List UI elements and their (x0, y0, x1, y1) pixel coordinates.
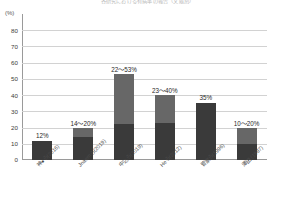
y-axis-tick-label: 30 (2, 108, 18, 115)
bar-data-label: 12% (36, 132, 49, 139)
y-axis-unit-label: (%) (5, 10, 14, 16)
gridline (22, 128, 267, 129)
gridline (22, 144, 267, 145)
bar-data-label: 14〜20% (70, 119, 96, 128)
y-axis-tick-label: 40 (2, 92, 18, 99)
y-axis-tick-label: 60 (2, 59, 18, 66)
y-axis-tick-label: 50 (2, 75, 18, 82)
y-axis-tick-label: 20 (2, 124, 18, 131)
bar-segment-upper (237, 128, 257, 144)
bar-data-label: 23〜40% (152, 86, 178, 95)
bar-data-label: 22〜53% (111, 65, 137, 74)
y-axis-tick-label: 0 (2, 156, 18, 163)
plot-area (22, 14, 267, 160)
gridline (22, 63, 267, 64)
bar-segment-upper (114, 74, 134, 124)
gridline (22, 111, 267, 112)
gridline (22, 30, 267, 31)
gridline (22, 79, 267, 80)
bar-chart: 各研究における有病率の報告（文献別） (%) 80706050403020100… (0, 0, 289, 203)
y-axis-tick-label: 10 (2, 140, 18, 147)
bar-segment-upper (73, 128, 93, 138)
bar-data-label: 10〜20% (234, 119, 260, 128)
gridline (22, 95, 267, 96)
y-axis-tick-label: 80 (2, 27, 18, 34)
bar-segment-upper (155, 95, 175, 123)
y-axis-tick-label: 70 (2, 43, 18, 50)
gridline (22, 46, 267, 47)
bar-data-label: 35% (199, 94, 212, 101)
chart-title: 各研究における有病率の報告（文献別） (40, 0, 255, 4)
